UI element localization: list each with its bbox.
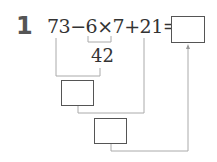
step1-box[interactable] xyxy=(61,80,94,106)
answer-box[interactable] xyxy=(171,16,205,43)
step2-box[interactable] xyxy=(94,118,127,144)
problem-number: 1 xyxy=(16,14,33,38)
expression: 73−6×7+21= xyxy=(47,15,178,37)
arrow-up-icon xyxy=(186,44,190,49)
partial-result: 42 xyxy=(91,46,114,66)
